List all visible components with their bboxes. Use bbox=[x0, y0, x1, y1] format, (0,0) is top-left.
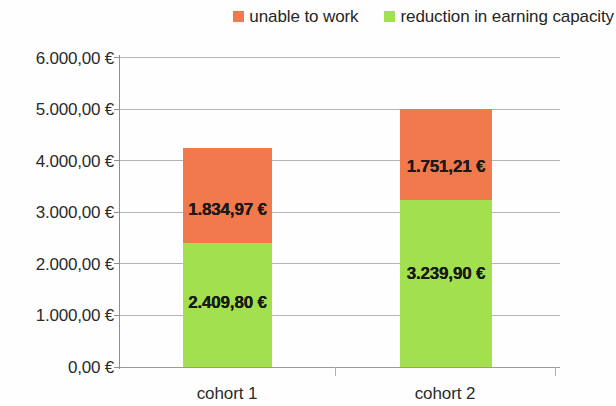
legend-item-unable-to-work[interactable]: unable to work bbox=[233, 7, 358, 26]
y-tick-label-4000: 4.000,00 € bbox=[6, 153, 114, 170]
plot-area: 1.834,97 € 2.409,80 € 1.751,21 € 3.239,9… bbox=[120, 57, 560, 367]
y-tick-label-6000: 6.000,00 € bbox=[6, 50, 114, 67]
bar-segment-unable-to-work-cohort-1[interactable]: 1.834,97 € bbox=[183, 148, 272, 243]
gridline-6000 bbox=[120, 57, 560, 58]
y-tick-label-5000: 5.000,00 € bbox=[6, 101, 114, 118]
x-axis: cohort 1 cohort 2 bbox=[120, 367, 560, 406]
bar-value-unable-to-work-cohort-1: 1.834,97 € bbox=[188, 200, 266, 220]
bar-stack-cohort-1[interactable]: 1.834,97 € 2.409,80 € bbox=[183, 148, 272, 367]
x-tick-mark-2 bbox=[555, 367, 556, 376]
y-tick-label-1000: 1.000,00 € bbox=[6, 307, 114, 324]
bar-segment-reduction-cohort-2[interactable]: 3.239,90 € bbox=[400, 200, 492, 367]
y-axis-labels: 6.000,00 € 5.000,00 € 4.000,00 € 3.000,0… bbox=[0, 0, 114, 406]
legend-item-reduction-in-earning-capacity[interactable]: reduction in earning capacity bbox=[384, 7, 614, 26]
x-axis-label-cohort-2: cohort 2 bbox=[415, 385, 476, 403]
x-tick-mark-1 bbox=[335, 367, 336, 376]
bar-segment-reduction-cohort-1[interactable]: 2.409,80 € bbox=[183, 243, 272, 367]
gridline-5000 bbox=[120, 109, 560, 110]
legend-swatch-orange-icon bbox=[233, 11, 244, 22]
legend-swatch-green-icon bbox=[384, 11, 395, 22]
bar-value-unable-to-work-cohort-2: 1.751,21 € bbox=[407, 157, 485, 177]
y-tick-label-0: 0,00 € bbox=[6, 359, 114, 376]
bar-value-reduction-cohort-1: 2.409,80 € bbox=[188, 293, 266, 313]
y-tick-label-2000: 2.000,00 € bbox=[6, 256, 114, 273]
bar-stack-cohort-2[interactable]: 1.751,21 € 3.239,90 € bbox=[400, 109, 492, 367]
bar-value-reduction-cohort-2: 3.239,90 € bbox=[407, 264, 485, 284]
x-axis-label-cohort-1: cohort 1 bbox=[197, 385, 258, 403]
stacked-bar-chart: unable to work reduction in earning capa… bbox=[0, 0, 616, 406]
legend-label-unable-to-work: unable to work bbox=[249, 7, 358, 26]
bar-segment-unable-to-work-cohort-2[interactable]: 1.751,21 € bbox=[400, 109, 492, 200]
y-tick-label-3000: 3.000,00 € bbox=[6, 204, 114, 221]
legend-label-reduction-in-earning-capacity: reduction in earning capacity bbox=[400, 7, 614, 26]
